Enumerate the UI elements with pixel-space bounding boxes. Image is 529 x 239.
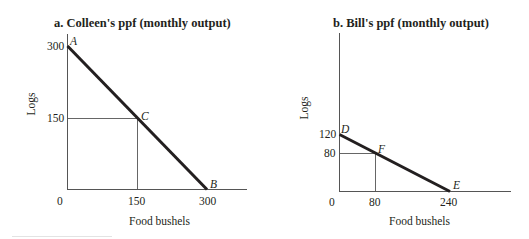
y-tick-120: 120 (319, 128, 336, 140)
y-axis-label: Logs (298, 97, 310, 120)
point-label-f: F (378, 143, 385, 155)
x-axis-label: Food bushels (389, 215, 450, 227)
chart-title: b. Bill's ppf (monthly output) (333, 16, 489, 31)
chart-panel-bill: b. Bill's ppf (monthly output) Logs 120 … (0, 0, 529, 239)
point-label-d: D (341, 123, 349, 135)
y-tick-80: 80 (324, 147, 336, 159)
ppf-line (340, 135, 451, 192)
x-tick-240: 240 (440, 196, 457, 208)
point-label-e: E (453, 179, 460, 191)
x-tick-80: 80 (369, 196, 381, 208)
divider (12, 236, 112, 237)
origin-label: 0 (329, 196, 335, 208)
